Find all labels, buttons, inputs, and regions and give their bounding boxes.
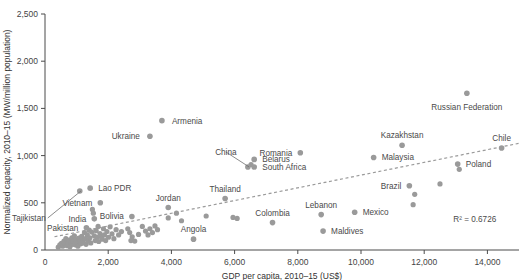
x-tick-label: 2,000: [98, 257, 120, 267]
data-point-labeled: [270, 220, 276, 226]
y-tick-label: 1,500: [17, 103, 39, 113]
data-point-labeled: [455, 161, 461, 167]
point-label: Malaysia: [382, 153, 415, 162]
data-point: [87, 235, 92, 240]
point-label: Vietnam: [62, 199, 92, 208]
point-label: South Africa: [262, 163, 307, 172]
point-label: Ukraine: [112, 132, 141, 141]
data-point: [88, 240, 93, 245]
data-point: [95, 224, 100, 229]
data-point-labeled: [147, 133, 153, 139]
r-squared-annotation: R² = 0.6726: [453, 215, 496, 224]
data-point: [204, 213, 209, 218]
point-label: Lebanon: [305, 201, 337, 210]
point-label: Brazil: [381, 182, 402, 191]
data-point: [111, 236, 116, 241]
data-point-labeled: [251, 157, 257, 163]
x-tick-label: 0: [43, 257, 48, 267]
y-tick-label: 2,500: [17, 9, 39, 19]
data-point-labeled: [318, 212, 324, 218]
point-label: Colombia: [255, 209, 290, 218]
y-axis-title: Normalized capacity, 2010–15 (MW/million…: [2, 29, 12, 234]
data-point-labeled: [77, 188, 83, 194]
data-point: [457, 167, 462, 172]
x-tick-label: 8,000: [287, 257, 309, 267]
data-point-labeled: [371, 155, 377, 161]
x-tick-label: 4,000: [161, 257, 183, 267]
x-tick-label: 6,000: [224, 257, 246, 267]
x-tick-label: 10,000: [348, 257, 374, 267]
data-point-labeled: [91, 216, 97, 222]
x-tick-label: 12,000: [411, 257, 437, 267]
point-label: Jordan: [156, 194, 181, 203]
data-point-labeled: [320, 228, 326, 234]
y-tick-label: 0: [33, 245, 38, 255]
data-point-labeled: [222, 196, 228, 202]
data-point: [136, 232, 141, 237]
data-point: [119, 229, 124, 234]
data-point-labeled: [129, 214, 135, 220]
data-point: [437, 181, 442, 186]
data-point: [235, 216, 240, 221]
point-label: Chile: [492, 134, 511, 143]
data-point: [140, 224, 145, 229]
data-point: [109, 231, 114, 236]
data-point-labeled: [464, 90, 470, 96]
data-point: [411, 202, 416, 207]
x-tick-label: 14,000: [474, 257, 500, 267]
scatter-chart: 05001,0001,5002,0002,50002,0004,0006,000…: [0, 0, 530, 280]
data-point-labeled: [87, 185, 93, 191]
data-point-labeled: [298, 150, 304, 156]
x-axis-title: GDP per capita, 2010–15 (US$): [222, 271, 342, 280]
chart-canvas: 05001,0001,5002,0002,50002,0004,0006,000…: [0, 0, 530, 280]
data-point-labeled: [159, 118, 165, 124]
data-point: [174, 211, 179, 216]
y-tick-label: 500: [24, 198, 38, 208]
point-label: Angola: [181, 225, 207, 234]
point-label: Bolivia: [100, 212, 125, 221]
point-label: Pakistan: [47, 224, 79, 233]
point-label: Mexico: [363, 208, 389, 217]
data-point-labeled: [399, 142, 405, 148]
data-point-labeled: [98, 200, 104, 206]
point-label: China: [215, 148, 237, 157]
point-label: India: [69, 215, 87, 224]
data-point-labeled: [352, 209, 358, 215]
data-point: [412, 192, 417, 197]
data-point-labeled: [251, 164, 257, 170]
point-label: Thailand: [209, 185, 241, 194]
point-label: Lao PDR: [98, 184, 131, 193]
data-point-labeled: [84, 225, 90, 231]
data-point: [91, 211, 96, 216]
y-tick-label: 1,000: [17, 151, 39, 161]
data-point: [104, 229, 109, 234]
point-label: Poland: [466, 160, 492, 169]
point-label: Russian Federation: [431, 103, 502, 112]
point-label: Armenia: [172, 117, 203, 126]
data-point: [179, 218, 184, 223]
data-point: [150, 230, 155, 235]
point-label: Tajikistan: [12, 214, 46, 223]
data-point-labeled: [407, 183, 413, 189]
data-point: [166, 215, 171, 220]
data-point: [132, 238, 137, 243]
point-label: Maldives: [331, 227, 363, 236]
data-point-labeled: [499, 145, 505, 151]
point-label: Kazakhstan: [381, 131, 424, 140]
data-point: [114, 227, 119, 232]
data-point: [155, 227, 160, 232]
data-point-labeled: [165, 205, 171, 211]
data-point: [145, 232, 150, 237]
data-point-labeled: [191, 236, 197, 242]
y-tick-label: 2,000: [17, 56, 39, 66]
data-point: [107, 224, 112, 229]
